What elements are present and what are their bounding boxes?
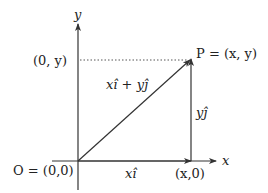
y-intercept-label: (0, y) <box>33 53 67 68</box>
x-component-label: xî <box>125 166 138 181</box>
point-p-label: P = (x, y) <box>196 46 257 61</box>
x-axis-label: x <box>222 153 230 168</box>
vector-diagram: y x (0, y) P = (x, y) xî + yĵ yĵ O = (0,… <box>0 0 268 193</box>
y-component-label: yĵ <box>195 105 208 120</box>
origin-label: O = (0,0) <box>13 163 74 178</box>
y-axis-label: y <box>73 7 82 22</box>
resultant-vector <box>78 60 190 161</box>
x-intercept-label: (x,0) <box>175 166 205 181</box>
resultant-vector-label: xî + yĵ <box>106 77 149 92</box>
